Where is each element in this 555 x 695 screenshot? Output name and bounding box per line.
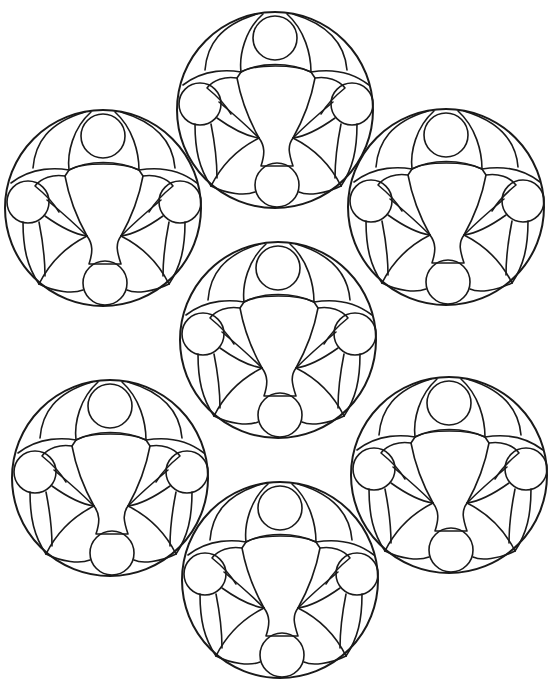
medallion-center — [180, 242, 376, 438]
medallion-upper-left — [5, 110, 201, 306]
medallion-lower-right — [351, 377, 547, 573]
medallion-bottom — [182, 482, 378, 678]
medallion-upper-right — [348, 109, 544, 305]
medallion-top — [177, 12, 373, 208]
coloring-page-canvas — [0, 0, 555, 695]
medallion-lower-left — [12, 380, 208, 576]
